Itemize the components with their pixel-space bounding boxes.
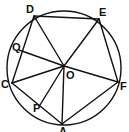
segment-QO — [19, 50, 64, 66]
segment-EF — [99, 19, 118, 82]
geometry-diagram: D E F A C Q P O — [0, 0, 129, 132]
segment-DO — [34, 16, 64, 66]
label-F: F — [120, 80, 127, 92]
segment-PO — [40, 66, 64, 105]
segment-AO — [62, 66, 64, 124]
segments — [12, 16, 118, 124]
segment-EO — [64, 19, 99, 66]
label-C: C — [1, 78, 9, 90]
label-E: E — [99, 6, 106, 18]
segment-CO — [12, 66, 64, 83]
label-A: A — [59, 125, 67, 132]
label-O: O — [66, 69, 75, 81]
label-D: D — [26, 3, 34, 15]
label-P: P — [33, 102, 40, 114]
label-Q: Q — [12, 41, 21, 53]
